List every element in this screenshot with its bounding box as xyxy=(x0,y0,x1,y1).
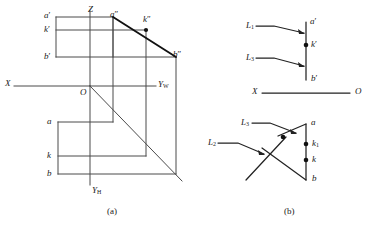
origin-label-o: O xyxy=(80,88,87,97)
leader-label-l3-bottom-subscript: 3 xyxy=(246,121,249,127)
point-label-k-b: k xyxy=(312,155,316,164)
leader-label-l3-bottom: L3 xyxy=(241,118,249,127)
ray-l2-crossing xyxy=(246,137,286,180)
point-label-k: k xyxy=(47,151,51,160)
point-label-b-prime: b′ xyxy=(44,52,50,61)
point-label-k1-subscript: 1 xyxy=(316,142,319,148)
point-dot-k-b xyxy=(304,158,309,163)
point-label-a-double-prime: a″ xyxy=(110,10,118,19)
leader-label-l3-top: L3 xyxy=(246,53,254,62)
point-label-b: b xyxy=(47,169,52,178)
point-label-k1-b: k1 xyxy=(312,139,319,148)
prime-mark: ′ xyxy=(315,39,317,49)
axis-label-o-b: O xyxy=(355,87,362,96)
leader-label-l1-subscript: 1 xyxy=(251,24,254,30)
prime-mark: ′ xyxy=(316,73,318,83)
point-label-b-double-prime: b″ xyxy=(173,50,181,59)
point-label-k-prime-b: k′ xyxy=(311,40,317,49)
point-label-a-b: a xyxy=(311,118,316,127)
axis-label-z: Z xyxy=(88,5,93,14)
leader-l2-bottom xyxy=(218,143,264,154)
figure-root: Z X YW YH O a′ k′ b′ a″ k″ b″ a k b X O … xyxy=(0,0,368,227)
leader-l3-top xyxy=(256,58,304,66)
axis-label-yw-subscript: W xyxy=(163,83,169,89)
diagram-b-lines xyxy=(218,22,350,180)
leader-label-l2-bottom: L2 xyxy=(208,138,216,147)
prime-mark: ′ xyxy=(49,51,51,61)
point-dot-k1-b xyxy=(304,142,309,147)
point-dot-k-prime-b xyxy=(304,43,309,48)
leader-label-l2-bottom-subscript: 2 xyxy=(213,141,216,147)
prime-mark: ′ xyxy=(315,16,317,26)
mitre-line-45 xyxy=(90,86,182,181)
point-label-a: a xyxy=(47,117,52,126)
point-dot-vertex-b xyxy=(281,135,286,140)
axis-label-yh-subscript: H xyxy=(97,189,101,195)
diagram-a-lines xyxy=(14,11,182,185)
axis-label-yw: YW xyxy=(158,80,169,89)
point-label-b-b: b xyxy=(312,174,317,183)
point-label-a-prime-b: a′ xyxy=(310,17,316,26)
edge-b-to-vertex xyxy=(262,148,306,180)
diagram-a-points xyxy=(144,28,148,32)
leader-label-l1-top: L1 xyxy=(246,21,254,30)
prime-mark: ″ xyxy=(115,9,119,19)
axis-label-x: X xyxy=(5,79,11,88)
point-label-k-prime: k′ xyxy=(44,25,50,34)
point-label-b-prime-b: b′ xyxy=(311,74,317,83)
prime-mark: ′ xyxy=(48,24,50,34)
caption-b: (b) xyxy=(284,206,295,216)
point-label-k-double-prime: k″ xyxy=(143,15,151,24)
leader-l1-top xyxy=(256,26,304,33)
point-dot-k-double-prime xyxy=(144,28,148,32)
figure-line-art xyxy=(0,0,368,227)
prime-mark: ′ xyxy=(49,10,51,20)
leader-label-l3-top-subscript: 3 xyxy=(251,56,254,62)
axis-label-x-b: X xyxy=(252,87,258,96)
prime-mark: ″ xyxy=(178,49,182,59)
point-label-a-prime: a′ xyxy=(44,11,50,20)
prime-mark: ″ xyxy=(147,14,151,24)
edge-a-to-vertex xyxy=(278,124,306,136)
caption-a: (a) xyxy=(107,206,117,216)
axis-label-yh: YH xyxy=(92,186,101,195)
